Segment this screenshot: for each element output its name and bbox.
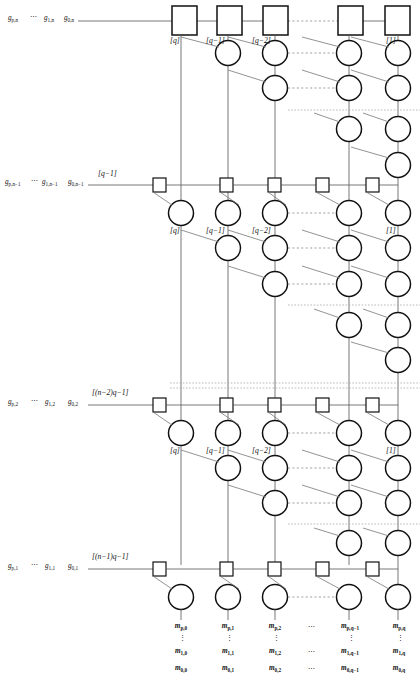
col-bracket-b2-c3: [q−2] [252, 227, 271, 235]
input-ellipsis-row1: ⋯ [30, 14, 38, 21]
col-bracket-b3-c1: [q] [170, 447, 180, 455]
input-ellipsis-row3: ⋯ [31, 398, 39, 405]
input-label-g-p-2: gp,2 [8, 399, 18, 408]
col-bracket-b2-c2: [q−1] [206, 227, 225, 235]
input-label-g-p-nm1: gp,n−1 [5, 179, 21, 188]
col-bracket-b1-c2: [q−1] [206, 37, 225, 45]
output-label-m-0-2: m0,2 [259, 665, 291, 674]
figure-canvas: .sq{fill:#ffffff;stroke:#111111;stroke-w… [0, 0, 420, 683]
band-2-bracket: [q−1] [98, 170, 117, 178]
col-bracket-b2-c1: [q] [170, 227, 180, 235]
lattice-graphics: .sq{fill:#ffffff;stroke:#111111;stroke-w… [0, 0, 420, 683]
output-ellipsis-top: ⋯ [308, 624, 316, 631]
output-ellipsis-bot: ⋯ [308, 666, 316, 673]
output-label-m-0-0: m0,0 [165, 665, 197, 674]
output-label-m-1-1: m1,1 [212, 648, 244, 657]
col-bracket-b3-c3: [q−2] [252, 447, 271, 455]
input-label-g-1-1: g1,1 [45, 563, 55, 572]
output-vdots-c4: ⋮ [348, 636, 355, 641]
output-label-m-1-qm1: m1,q−1 [330, 648, 370, 657]
output-label-m-p-0: mp,0 [165, 623, 197, 632]
input-label-g-0-2: g0,2 [68, 399, 78, 408]
output-label-m-0-1: m0,1 [212, 665, 244, 674]
input-label-g-1-n: g1,n [44, 15, 54, 24]
input-label-g-p-n: gp,n [8, 15, 18, 24]
output-vdots-c5: ⋮ [397, 636, 404, 641]
output-label-m-p-q: mp,q [383, 623, 415, 632]
input-ellipsis-row2: ⋯ [31, 178, 39, 185]
input-label-g-1-nm1: g1,n−1 [42, 179, 58, 188]
col-bracket-b3-c5: [1] [386, 447, 396, 455]
band-3-bracket: [(n−2)q−1] [92, 389, 128, 397]
output-label-m-1-2: m1,2 [259, 648, 291, 657]
output-label-m-0-q: m0,q [383, 665, 415, 674]
output-label-m-p-1: mp,1 [212, 623, 244, 632]
output-label-m-1-0: m1,0 [165, 648, 197, 657]
input-label-g-1-2: g1,2 [45, 399, 55, 408]
col-bracket-b1-c5: [1] [386, 37, 396, 45]
col-bracket-b1-c1: [q] [170, 37, 180, 45]
input-label-g-0-nm1: g0,n−1 [68, 179, 84, 188]
col-bracket-b3-c2: [q−1] [206, 447, 225, 455]
input-label-g-0-n: g0,n [64, 15, 74, 24]
output-label-m-p-2: mp,2 [259, 623, 291, 632]
output-label-m-0-qm1: m0,q−1 [330, 665, 370, 674]
output-vdots-c2: ⋮ [226, 636, 233, 641]
output-ellipsis-mid: ⋯ [308, 649, 316, 656]
input-label-g-0-1: g0,1 [68, 563, 78, 572]
output-label-m-1-q: m1,q [383, 648, 415, 657]
col-bracket-b1-c3: [q−2] [252, 37, 271, 45]
input-label-g-p-1: gp,1 [8, 563, 18, 572]
col-bracket-b2-c5: [1] [386, 227, 396, 235]
output-label-m-p-qm1: mp,q−1 [330, 623, 370, 632]
band-4-bracket: [(n−1)q−1] [92, 553, 128, 561]
output-vdots-c3: ⋮ [273, 636, 280, 641]
input-ellipsis-row4: ⋯ [31, 562, 39, 569]
output-vdots-c1: ⋮ [179, 636, 186, 641]
